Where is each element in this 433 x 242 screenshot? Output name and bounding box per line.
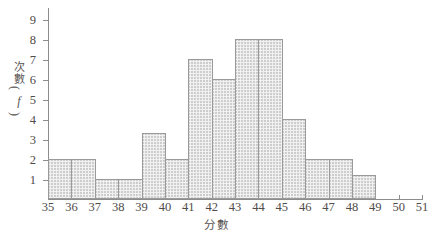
y-tick-label: 9: [30, 13, 36, 28]
histogram-bar: [329, 159, 353, 199]
histogram-bar: [95, 179, 119, 199]
y-tick-label: 2: [30, 153, 36, 168]
x-tick: 51: [422, 195, 423, 200]
y-tick-label: 7: [30, 53, 36, 68]
x-axis-title: 分數: [0, 216, 433, 232]
x-tick-label: 39: [135, 200, 148, 215]
y-axis-title: 次 數 ( f ): [6, 62, 32, 114]
y-tick-label: 6: [30, 73, 36, 88]
y-axis-title-char-2: 數: [14, 74, 25, 85]
histogram-bar: [48, 159, 72, 199]
y-axis-unit-symbol: f: [17, 95, 20, 107]
y-tick: 7: [43, 60, 49, 61]
histogram-bar: [352, 175, 376, 199]
x-tick-label: 47: [322, 200, 335, 215]
y-tick-label: 4: [30, 113, 36, 128]
x-tick-label: 49: [369, 200, 382, 215]
x-tick-label: 35: [42, 200, 55, 215]
histogram-bar: [165, 159, 189, 199]
x-tick-label: 44: [252, 200, 265, 215]
histogram-bar: [142, 133, 166, 199]
x-tick-label: 37: [89, 200, 102, 215]
x-tick-label: 48: [346, 200, 359, 215]
y-tick: 5: [43, 100, 49, 101]
y-tick: 9: [43, 20, 49, 21]
y-tick: 8: [43, 40, 49, 41]
paren-close-glyph: ): [9, 112, 21, 116]
histogram-chart: 次 數 ( f ) 123456789 35363738394041424344…: [0, 0, 433, 242]
x-tick-label: 43: [229, 200, 242, 215]
x-tick-label: 51: [416, 200, 429, 215]
y-tick: 4: [43, 120, 49, 121]
x-tick-label: 36: [65, 200, 78, 215]
paren-open-glyph: (: [9, 86, 21, 90]
y-tick: 3: [43, 140, 49, 141]
histogram-bar: [212, 79, 236, 199]
x-tick-label: 41: [182, 200, 195, 215]
y-tick-label: 5: [30, 93, 36, 108]
y-axis-unit-group: ( f ): [8, 88, 30, 114]
x-tick-label: 46: [299, 200, 312, 215]
histogram-bar: [235, 39, 259, 199]
x-tick-label: 40: [159, 200, 172, 215]
y-tick-label: 3: [30, 133, 36, 148]
histogram-bar: [258, 39, 282, 199]
histogram-bar: [118, 179, 142, 199]
histogram-bar: [282, 119, 306, 199]
x-tick-label: 45: [276, 200, 289, 215]
x-axis-title-text: 分數: [204, 219, 230, 231]
x-tick-label: 42: [205, 200, 218, 215]
x-tick: 50: [399, 195, 400, 200]
plot-area: 123456789 353637383940414243444546474849…: [48, 8, 422, 200]
y-tick: 6: [43, 80, 49, 81]
y-axis-title-char-1: 次: [14, 62, 25, 73]
x-tick-label: 50: [392, 200, 405, 215]
x-tick-label: 38: [112, 200, 125, 215]
histogram-bar: [71, 159, 95, 199]
histogram-bar: [188, 59, 212, 199]
y-tick-label: 8: [30, 33, 36, 48]
histogram-bar: [305, 159, 329, 199]
y-tick-label: 1: [30, 173, 36, 188]
